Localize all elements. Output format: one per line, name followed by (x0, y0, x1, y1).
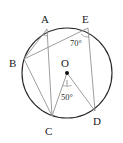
diagram-canvas: A B C D E O 70° 50° (0, 0, 123, 143)
point-label-b: B (9, 57, 16, 69)
chord-e-d (88, 28, 95, 111)
point-label-a: A (41, 13, 49, 25)
circle-geometry-figure: A B C D E O 70° 50° (0, 0, 123, 143)
angle-label-70: 70° (70, 38, 82, 48)
chord-a-c (47, 29, 52, 116)
point-label-d: D (93, 115, 101, 127)
center-label-o: O (61, 57, 69, 69)
center-point-dot (65, 71, 69, 75)
point-label-c: C (45, 125, 52, 137)
point-label-e: E (82, 13, 89, 25)
angle-label-50: 50° (61, 92, 73, 102)
chord-a-b (24, 29, 47, 59)
angle-arc-at-e-icon (81, 34, 89, 37)
